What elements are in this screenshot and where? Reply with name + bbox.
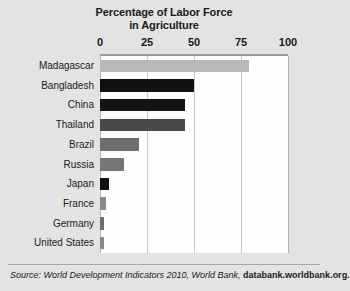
bar-japan — [100, 178, 109, 191]
bar-russia — [100, 158, 124, 171]
bar-row: Germany — [0, 214, 328, 234]
chart-title: Percentage of Labor Force in Agriculture — [0, 6, 328, 32]
bar-row: Madagascar — [0, 56, 328, 76]
category-label-bangladesh: Bangladesh — [0, 76, 94, 96]
source-prefix: Source: World Development Indicators 201… — [10, 270, 243, 280]
source-note: Source: World Development Indicators 201… — [10, 270, 322, 280]
category-label-germany: Germany — [0, 214, 94, 234]
bar-thailand — [100, 119, 185, 132]
bar-bangladesh — [100, 79, 194, 92]
category-label-thailand: Thailand — [0, 115, 94, 135]
bar-china — [100, 99, 185, 112]
bar-row: Russia — [0, 155, 328, 175]
x-tick-label-25: 25 — [141, 36, 153, 48]
bar-row: France — [0, 194, 328, 214]
bar-france — [100, 197, 106, 210]
bar-germany — [100, 217, 104, 230]
bar-row: United States — [0, 233, 328, 253]
category-label-united-states: United States — [0, 233, 94, 253]
chart-title-line-1: Percentage of Labor Force — [0, 6, 328, 19]
chart-title-line-2: in Agriculture — [0, 19, 328, 32]
bar-row: China — [0, 95, 328, 115]
bar-madagascar — [100, 60, 249, 73]
category-label-brazil: Brazil — [0, 135, 94, 155]
source-divider — [8, 264, 320, 265]
category-label-france: France — [0, 194, 94, 214]
x-tick-label-50: 50 — [188, 36, 200, 48]
category-label-madagascar: Madagascar — [0, 56, 94, 76]
bar-row: Thailand — [0, 115, 328, 135]
source-url: databank.worldbank.org. — [243, 270, 350, 280]
bar-row: Japan — [0, 174, 328, 194]
x-axis-tick-labels: 0255075100 — [0, 36, 328, 52]
category-label-russia: Russia — [0, 155, 94, 175]
x-tick-label-75: 75 — [235, 36, 247, 48]
x-tick-label-100: 100 — [279, 36, 297, 48]
category-label-china: China — [0, 95, 94, 115]
x-tick-label-0: 0 — [97, 36, 103, 48]
bar-row: Bangladesh — [0, 76, 328, 96]
category-label-japan: Japan — [0, 174, 94, 194]
bar-united-states — [100, 237, 104, 250]
bar-brazil — [100, 138, 139, 151]
bar-row: Brazil — [0, 135, 328, 155]
